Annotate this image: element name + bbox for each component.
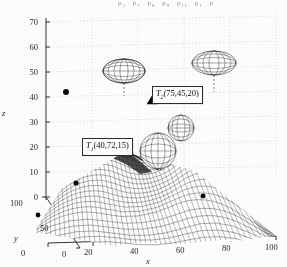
annotation-target-1-coords: (40,72,15) <box>93 140 128 150</box>
z-axis <box>46 18 50 200</box>
y-axis-label: y <box>14 233 18 243</box>
z-tick-30: 30 <box>12 117 38 127</box>
z-tick-50: 50 <box>12 67 38 77</box>
z-tick-70: 70 <box>12 17 38 27</box>
surface-plot-figure: p5p7p8p9p11p1p <box>0 0 287 267</box>
x-tick-80: 80 <box>222 243 231 253</box>
z-axis-label: z <box>2 108 5 118</box>
annotation-target-1: T1(40,72,15) <box>82 138 133 156</box>
ellipsoid-mid-surface <box>140 133 176 169</box>
annotation-target-2: T2(75,45,20) <box>152 86 203 104</box>
y-tick-100: 100 <box>10 198 23 208</box>
x-tick-0: 0 <box>21 248 25 258</box>
ellipsoid-right-upper <box>192 51 236 75</box>
x-tick-40: 40 <box>130 246 139 256</box>
x-tick-60: 60 <box>176 245 185 255</box>
z-tick-10: 10 <box>12 167 38 177</box>
x-axis-label: x <box>146 256 150 266</box>
z-tick-20: 20 <box>12 142 38 152</box>
x-tick-100: 100 <box>265 242 278 252</box>
y-tick-50: 50 <box>40 223 49 233</box>
y-tick-0: 0 <box>62 249 66 259</box>
z-tick-40: 40 <box>12 92 38 102</box>
ellipsoid-left-surface <box>168 115 194 141</box>
ellipsoid-left-upper <box>103 59 145 83</box>
z-tick-60: 60 <box>12 42 38 52</box>
annotation-target-2-coords: (75,45,20) <box>163 88 198 98</box>
x-tick-20: 20 <box>84 247 93 257</box>
